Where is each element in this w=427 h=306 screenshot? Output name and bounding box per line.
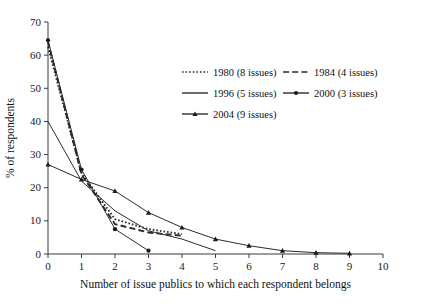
series-marker-2004	[45, 162, 50, 167]
x-tick-label: 10	[378, 260, 390, 272]
y-tick-label: 40	[30, 115, 42, 127]
series-line-2000	[48, 40, 149, 250]
y-tick-label: 10	[30, 214, 42, 226]
x-tick-label: 9	[347, 260, 353, 272]
x-tick-label: 6	[246, 260, 252, 272]
x-tick-label: 5	[213, 260, 219, 272]
x-axis-title: Number of issue publics to which each re…	[80, 278, 351, 291]
series-marker-2004	[146, 210, 151, 215]
y-tick-label: 60	[30, 49, 42, 61]
line-chart: 010203040506070012345678910Number of iss…	[0, 0, 427, 306]
series-line-1984	[48, 42, 182, 236]
y-tick-label: 50	[30, 82, 42, 94]
x-tick-label: 7	[280, 260, 286, 272]
x-tick-label: 4	[179, 260, 185, 272]
series-marker-2000	[79, 167, 83, 171]
legend-label-1996: 1996 (5 issues)	[213, 88, 277, 100]
y-tick-label: 70	[30, 16, 42, 28]
legend-label-1984: 1984 (4 issues)	[314, 67, 378, 79]
series-line-1980	[48, 47, 182, 234]
series-marker-2000	[146, 249, 150, 253]
y-axis-title: % of respondents	[4, 98, 17, 178]
legend-swatch-2000-marker	[294, 91, 298, 95]
x-tick-label: 0	[45, 260, 51, 272]
legend-label-1980: 1980 (8 issues)	[213, 67, 277, 79]
series-marker-2004	[179, 225, 184, 230]
y-tick-label: 20	[30, 181, 42, 193]
x-tick-label: 3	[146, 260, 152, 272]
x-tick-label: 8	[313, 260, 319, 272]
legend-label-2000: 2000 (3 issues)	[314, 88, 378, 100]
series-marker-2000	[113, 227, 117, 231]
x-tick-label: 1	[79, 260, 85, 272]
series-marker-2000	[46, 38, 50, 42]
x-tick-label: 2	[112, 260, 118, 272]
series-line-2004	[48, 165, 350, 254]
y-tick-label: 30	[30, 148, 42, 160]
chart-figure: 010203040506070012345678910Number of iss…	[0, 0, 427, 306]
y-tick-label: 0	[36, 248, 42, 260]
legend-label-2004: 2004 (9 issues)	[213, 109, 277, 121]
